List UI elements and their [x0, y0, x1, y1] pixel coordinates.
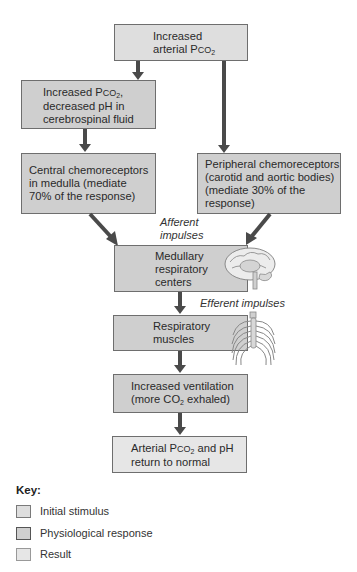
node-text-line: Increased ventilation — [131, 380, 234, 393]
key-label-initial-stimulus: Initial stimulus — [40, 505, 109, 517]
node-text-line: (more CO2 exhaled) — [131, 393, 234, 406]
node-increased-ventilation: Increased ventilation (more CO2 exhaled) — [113, 374, 248, 413]
arrow-shaft — [178, 413, 182, 428]
arrow-shaft — [178, 351, 182, 366]
node-text-line: respiratory — [155, 263, 208, 276]
rib-cage-illustration — [228, 312, 278, 368]
key-label-physiological-response: Physiological response — [40, 527, 153, 539]
key-swatch-result — [16, 548, 31, 561]
node-text-line: Medullary — [155, 250, 208, 263]
arrow-head — [174, 306, 186, 314]
efferent-impulses-label: Efferent impulses — [200, 297, 285, 310]
afferent-impulses-label: Afferent impulses — [160, 216, 203, 242]
node-text-line: centers — [155, 276, 208, 289]
node-text-line: muscles — [153, 333, 210, 346]
node-text-line: return to normal — [131, 456, 234, 469]
key-swatch-initial-stimulus — [16, 505, 31, 518]
arrow-head — [174, 427, 186, 435]
label-line: impulses — [160, 229, 203, 242]
node-text-line: Arterial PCO2 and pH — [131, 442, 234, 456]
node-result-normal: Arterial PCO2 and pH return to normal — [112, 436, 247, 473]
key-title: Key: — [16, 484, 41, 496]
label-line: Afferent — [160, 216, 203, 229]
arrow-shaft — [178, 292, 182, 307]
key-label-result: Result — [40, 548, 71, 560]
node-text-line: Respiratory — [153, 320, 210, 333]
arrow-head — [174, 365, 186, 373]
brain-illustration — [222, 246, 282, 294]
key-swatch-physiological-response — [16, 527, 31, 540]
